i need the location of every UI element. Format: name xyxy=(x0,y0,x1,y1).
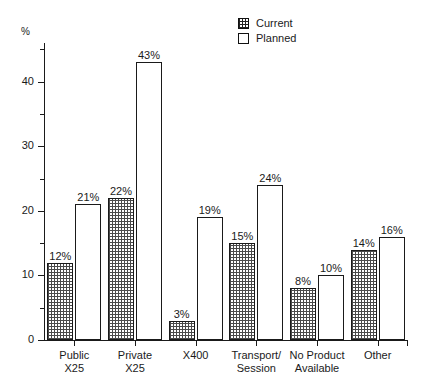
bar-current: 22% xyxy=(108,198,134,340)
bar-current: 14% xyxy=(351,250,377,340)
bar-chart: % Current Planned 010203040 12%21%22%43%… xyxy=(0,0,429,384)
legend-item-current: Current xyxy=(238,17,296,30)
bar-value-label: 12% xyxy=(49,250,71,262)
bar-planned: 24% xyxy=(257,185,283,340)
x-tick xyxy=(196,341,197,346)
y-tick-minor xyxy=(40,308,44,309)
bar-value-label: 43% xyxy=(138,49,160,61)
y-tick-major: 20 xyxy=(38,211,44,212)
bar-planned: 10% xyxy=(318,275,344,340)
bar-planned: 21% xyxy=(75,204,101,340)
x-tick xyxy=(378,341,379,346)
y-tick-label: 30 xyxy=(22,139,34,152)
y-tick-label: 10 xyxy=(22,268,34,281)
y-tick-label: 0 xyxy=(28,333,34,346)
y-axis-unit-label: % xyxy=(21,26,30,37)
bar-value-label: 22% xyxy=(110,185,132,197)
bar-value-label: 8% xyxy=(295,275,311,287)
y-tick-label: 20 xyxy=(22,204,34,217)
y-tick-minor xyxy=(40,243,44,244)
chart-legend: Current Planned xyxy=(238,17,296,45)
y-tick-major: 40 xyxy=(38,82,44,83)
legend-label-current: Current xyxy=(256,18,293,29)
y-tick-major: 10 xyxy=(38,275,44,276)
x-tick xyxy=(256,341,257,346)
plot-area: 010203040 12%21%22%43%3%19%15%24%8%10%14… xyxy=(44,43,408,341)
bar-value-label: 10% xyxy=(320,262,342,274)
bar-value-label: 3% xyxy=(174,308,190,320)
x-tick xyxy=(74,341,75,346)
x-tick xyxy=(135,341,136,346)
bar-current: 3% xyxy=(169,321,195,340)
y-axis-line xyxy=(44,43,45,341)
bar-value-label: 24% xyxy=(259,172,281,184)
bar-value-label: 16% xyxy=(381,224,403,236)
y-tick-major: 30 xyxy=(38,146,44,147)
y-tick-minor xyxy=(40,179,44,180)
y-tick-label: 40 xyxy=(22,75,34,88)
y-tick-minor xyxy=(40,49,44,50)
category-label: Other xyxy=(347,349,408,362)
category-label: Public X25 xyxy=(44,349,105,375)
category-label: No Product Available xyxy=(287,349,348,375)
category-label: Transport/ Session xyxy=(226,349,287,375)
bar-planned: 19% xyxy=(197,217,223,340)
bar-current: 15% xyxy=(229,243,255,340)
bar-value-label: 15% xyxy=(231,230,253,242)
bar-value-label: 21% xyxy=(77,191,99,203)
bar-current: 8% xyxy=(290,288,316,340)
bar-current: 12% xyxy=(47,263,73,340)
category-label: X400 xyxy=(165,349,226,362)
y-tick-minor xyxy=(40,114,44,115)
bar-value-label: 14% xyxy=(353,237,375,249)
bar-value-label: 19% xyxy=(199,204,221,216)
category-label: Private X25 xyxy=(105,349,166,375)
x-axis-line xyxy=(44,340,408,341)
hatched-square-icon xyxy=(238,18,249,29)
y-tick-major: 0 xyxy=(38,340,44,341)
bar-planned: 16% xyxy=(379,237,405,340)
x-tick xyxy=(317,341,318,346)
x-tick-end xyxy=(407,341,408,346)
bar-planned: 43% xyxy=(136,62,162,340)
